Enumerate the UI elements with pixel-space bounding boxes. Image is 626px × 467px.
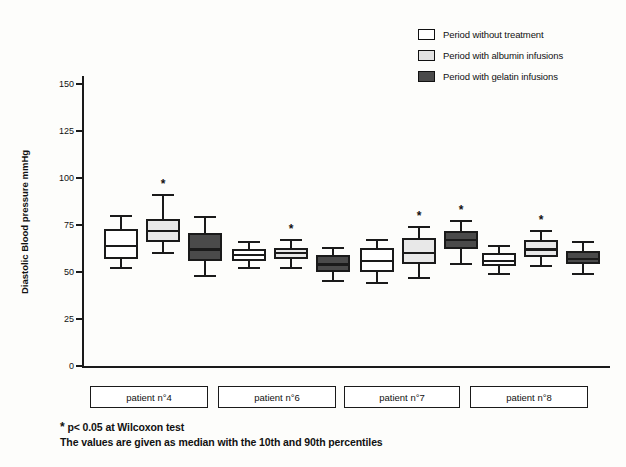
y-tick-50 [76, 271, 82, 273]
median-line [104, 245, 138, 247]
significance-asterisk: * [417, 211, 422, 221]
whisker-cap-lower [530, 265, 552, 267]
legend-item-albumin: Period with albumin infusions [418, 47, 623, 64]
whisker-cap-lower [194, 275, 216, 277]
legend-swatch-no-treatment [418, 29, 435, 40]
median-line [360, 260, 394, 262]
box-group-2: * [232, 76, 358, 368]
whisker-upper [418, 227, 420, 238]
boxplot-gelatin-group-2 [316, 76, 350, 368]
whisker-cap-lower [152, 252, 174, 254]
significance-asterisk: * [161, 179, 166, 189]
whisker-upper [376, 240, 378, 248]
median-line [232, 254, 266, 256]
whisker-cap-lower [238, 267, 260, 269]
whisker-upper [290, 240, 292, 248]
significance-asterisk: * [539, 215, 544, 225]
box-group-1: * [104, 76, 230, 368]
y-tick-label-125: 125 [59, 126, 74, 136]
whisker-cap-upper [450, 220, 472, 222]
y-tick-25 [76, 318, 82, 320]
patient-label-3: patient n°7 [344, 386, 460, 408]
boxplot-none-group-4 [482, 76, 516, 368]
median-line [444, 239, 478, 241]
whisker-upper [498, 246, 500, 254]
whisker-upper [204, 217, 206, 232]
median-line [274, 252, 308, 254]
whisker-cap-upper [530, 230, 552, 232]
median-line [402, 252, 436, 254]
legend-label-no-treatment: Period without treatment [443, 29, 544, 40]
median-line [566, 258, 600, 260]
whisker-cap-upper [152, 194, 174, 196]
footnote-significance-text: p< 0.05 at Wilcoxon test [65, 421, 185, 433]
y-tick-label-25: 25 [64, 314, 74, 324]
patient-label-2: patient n°6 [218, 386, 336, 408]
boxplot-gelatin-group-3: * [444, 76, 478, 368]
median-line [316, 263, 350, 265]
whisker-cap-lower [280, 267, 302, 269]
boxplot-none-group-3 [360, 76, 394, 368]
box-group-4: * [482, 76, 608, 368]
y-tick-150 [76, 83, 82, 85]
whisker-cap-lower [488, 273, 510, 275]
whisker-upper [248, 242, 250, 250]
whisker-cap-lower [572, 273, 594, 275]
footnote-significance: * p< 0.05 at Wilcoxon test [60, 420, 580, 435]
footnote-percentiles: The values are given as median with the … [60, 435, 580, 450]
y-tick-label-75: 75 [64, 220, 74, 230]
whisker-cap-upper [194, 216, 216, 218]
whisker-upper [162, 195, 164, 219]
legend-item-no-treatment: Period without treatment [418, 26, 623, 43]
whisker-upper [332, 248, 334, 256]
y-tick-125 [76, 130, 82, 132]
whisker-cap-upper [366, 239, 388, 241]
y-axis-title: Diastolic Blood pressure mmHg [19, 150, 30, 294]
whisker-cap-lower [366, 282, 388, 284]
y-tick-0 [76, 365, 82, 367]
whisker-cap-upper [238, 241, 260, 243]
y-axis-line [82, 76, 84, 368]
median-line [482, 260, 516, 262]
significance-asterisk: * [289, 224, 294, 234]
whisker-upper [460, 221, 462, 230]
median-line [524, 248, 558, 250]
y-tick-label-50: 50 [64, 267, 74, 277]
whisker-upper [120, 216, 122, 229]
whisker-cap-lower [450, 263, 472, 265]
y-tick-100 [76, 177, 82, 179]
box-group-3: ** [360, 76, 486, 368]
patient-label-bar: patient n°4patient n°6patient n°7patient… [82, 386, 610, 408]
legend-swatch-albumin [418, 50, 435, 61]
whisker-cap-upper [110, 215, 132, 217]
whisker-upper [540, 231, 542, 240]
whisker-cap-upper [322, 247, 344, 249]
significance-asterisk: * [459, 205, 464, 215]
boxplot-albumin-group-2: * [274, 76, 308, 368]
whisker-cap-upper [408, 226, 430, 228]
boxplot-gelatin-group-1 [188, 76, 222, 368]
whisker-cap-lower [110, 267, 132, 269]
whisker-cap-lower [322, 280, 344, 282]
legend-label-albumin: Period with albumin infusions [443, 50, 563, 61]
boxplot-albumin-group-3: * [402, 76, 436, 368]
median-line [146, 230, 180, 232]
patient-label-1: patient n°4 [90, 386, 208, 408]
y-tick-label-150: 150 [59, 79, 74, 89]
boxplot-none-group-2 [232, 76, 266, 368]
whisker-cap-upper [572, 241, 594, 243]
whisker-cap-upper [488, 245, 510, 247]
boxplot-figure: Period without treatment Period with alb… [0, 0, 626, 467]
whisker-lower [460, 249, 462, 264]
whisker-lower [204, 261, 206, 276]
boxplot-albumin-group-4: * [524, 76, 558, 368]
y-tick-75 [76, 224, 82, 226]
boxplot-albumin-group-1: * [146, 76, 180, 368]
plot-area: Diastolic Blood pressure mmHg 0255075100… [82, 76, 610, 368]
whisker-cap-upper [280, 239, 302, 241]
y-tick-label-100: 100 [59, 173, 74, 183]
y-tick-label-0: 0 [69, 361, 74, 371]
box-rect [188, 233, 222, 261]
patient-label-4: patient n°8 [470, 386, 588, 408]
figure-footnotes: * p< 0.05 at Wilcoxon test The values ar… [60, 420, 580, 450]
